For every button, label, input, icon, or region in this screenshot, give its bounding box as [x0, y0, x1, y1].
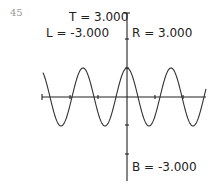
graph-canvas [0, 0, 214, 184]
